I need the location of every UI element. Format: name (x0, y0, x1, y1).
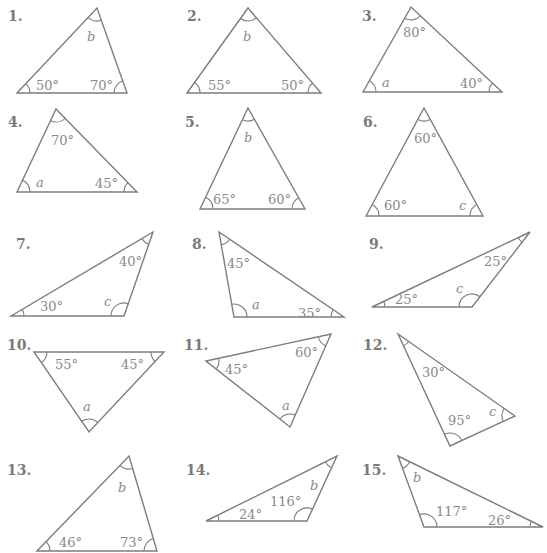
angle-arc (405, 16, 421, 20)
angle-label: 73° (120, 536, 143, 549)
unknown-angle-label: b (118, 481, 126, 494)
angle-arc (195, 82, 200, 93)
angle-arc (151, 352, 155, 361)
problem-number: 14. (186, 462, 210, 478)
angle-label: 60° (268, 193, 291, 206)
angle-label: 45° (121, 358, 144, 371)
problem-number: 4. (8, 114, 23, 130)
angle-label: 45° (95, 177, 118, 190)
unknown-angle-label: a (382, 76, 390, 89)
unknown-angle-label: c (489, 405, 496, 418)
unknown-angle-label: b (243, 30, 251, 43)
angle-arc (489, 83, 492, 92)
unknown-angle-label: a (282, 399, 290, 412)
angle-arc (318, 337, 325, 346)
angle-label: 50° (281, 79, 304, 92)
angle-label: 60° (384, 199, 407, 212)
angle-arc (142, 239, 149, 245)
angle-arc (240, 18, 256, 21)
unknown-angle-label: a (83, 400, 91, 413)
triangle (398, 456, 543, 527)
angle-arc (402, 462, 409, 468)
angle-label: 24° (239, 508, 262, 521)
problem-number: 5. (185, 114, 200, 130)
angle-arc (518, 238, 522, 243)
angle-label: 30° (40, 300, 63, 313)
problem-number: 1. (8, 8, 23, 24)
problem-number: 8. (192, 236, 207, 252)
angle-label: 70° (51, 134, 74, 147)
triangle (398, 334, 515, 446)
problem-number: 7. (16, 236, 31, 252)
angle-arc (331, 310, 333, 317)
angle-label: 40° (460, 77, 483, 90)
angle-arc (23, 180, 30, 192)
angle-arc (88, 17, 101, 21)
unknown-angle-label: a (36, 176, 44, 189)
unknown-angle-label: b (87, 30, 95, 43)
angle-arc (26, 84, 30, 93)
angle-arc (216, 358, 219, 369)
unknown-angle-label: b (310, 479, 318, 492)
angle-label: 65° (213, 193, 236, 206)
angle-arc (369, 81, 376, 92)
angle-arc (221, 239, 229, 244)
angle-label: 80° (403, 26, 426, 39)
problem-number: 12. (363, 337, 387, 353)
angle-label: 46° (59, 536, 82, 549)
angle-label: 35° (298, 307, 321, 320)
angle-arc (82, 419, 98, 423)
angle-arc (41, 352, 47, 363)
triangle (17, 109, 137, 192)
angle-arc (530, 521, 531, 527)
problem-number: 6. (363, 114, 378, 130)
angle-arc (144, 539, 153, 551)
angle-label: 30° (422, 366, 445, 379)
angle-label: 45° (225, 363, 248, 376)
angle-label: 45° (227, 257, 250, 270)
angle-label: 25° (395, 293, 418, 306)
problem-number: 15. (362, 462, 386, 478)
unknown-angle-label: a (252, 298, 260, 311)
unknown-angle-label: c (456, 282, 463, 295)
triangle (11, 232, 153, 316)
angle-label: 70° (90, 79, 113, 92)
angle-arc (242, 119, 254, 121)
unknown-angle-label: c (104, 295, 111, 308)
angle-label: 60° (295, 346, 318, 359)
angle-arc (22, 309, 24, 316)
angle-arc (308, 83, 313, 93)
angle-label: 117° (436, 505, 467, 518)
angle-label: 60° (414, 132, 437, 145)
angle-arc (502, 409, 504, 422)
angle-arc (50, 118, 65, 122)
angle-label: 26° (488, 514, 511, 527)
angle-label: 95° (448, 414, 471, 427)
angle-arc (372, 205, 379, 216)
angle-arc (403, 341, 408, 345)
angle-arc (218, 515, 219, 521)
angle-arc (114, 81, 123, 93)
unknown-angle-label: b (244, 131, 252, 144)
angle-arc (124, 183, 128, 192)
angle-arc (120, 465, 133, 469)
angle-arc (418, 119, 430, 121)
problem-number: 11. (184, 337, 208, 353)
angle-arc (325, 462, 331, 468)
problem-number: 9. (369, 236, 384, 252)
angle-arc (280, 414, 295, 419)
unknown-angle-label: b (413, 471, 421, 484)
angle-label: 25° (484, 255, 507, 268)
angle-arc (46, 542, 50, 551)
angle-label: 40° (119, 255, 142, 268)
angle-arc (384, 301, 385, 307)
angle-arc (470, 205, 477, 216)
unknown-angle-label: c (459, 199, 466, 212)
problem-number: 3. (362, 8, 377, 24)
angle-arc (292, 198, 299, 209)
angle-label: 116° (270, 495, 301, 508)
triangle (34, 352, 164, 432)
problem-number: 10. (7, 337, 31, 353)
angle-label: 50° (36, 79, 59, 92)
angle-label: 55° (55, 358, 78, 371)
